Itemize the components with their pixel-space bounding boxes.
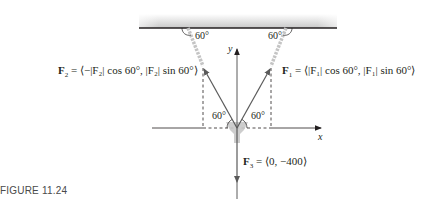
angle-label-bottom-left: 60° <box>212 111 226 121</box>
f1-components: = ⟨|F₁| cos 60°, |F₁| sin 60°⟩ <box>292 64 415 76</box>
f2-symbol: F <box>58 64 65 76</box>
f1-equation: F1 = ⟨|F₁| cos 60°, |F₁| sin 60°⟩ <box>282 65 415 79</box>
f3-components: = ⟨0, −400⟩ <box>253 155 306 167</box>
y-axis-label: y <box>228 44 232 54</box>
force-diagram <box>0 0 427 214</box>
f3-symbol: F <box>243 155 250 167</box>
angle-label-top-left: 60° <box>195 31 209 41</box>
angle-label-top-right: 60° <box>268 31 282 41</box>
f3-equation: F3 = ⟨0, −400⟩ <box>243 156 307 170</box>
ceiling <box>139 14 337 28</box>
f1-symbol: F <box>282 64 289 76</box>
f2-components: = ⟨−|F₂| cos 60°, |F₂| sin 60°⟩ <box>68 64 197 76</box>
f2-equation: F2 = ⟨−|F₂| cos 60°, |F₂| sin 60°⟩ <box>58 65 198 79</box>
angle-label-bottom-right: 60° <box>251 111 265 121</box>
figure-caption: FIGURE 11.24 <box>0 185 67 196</box>
x-axis-label: x <box>318 132 322 142</box>
